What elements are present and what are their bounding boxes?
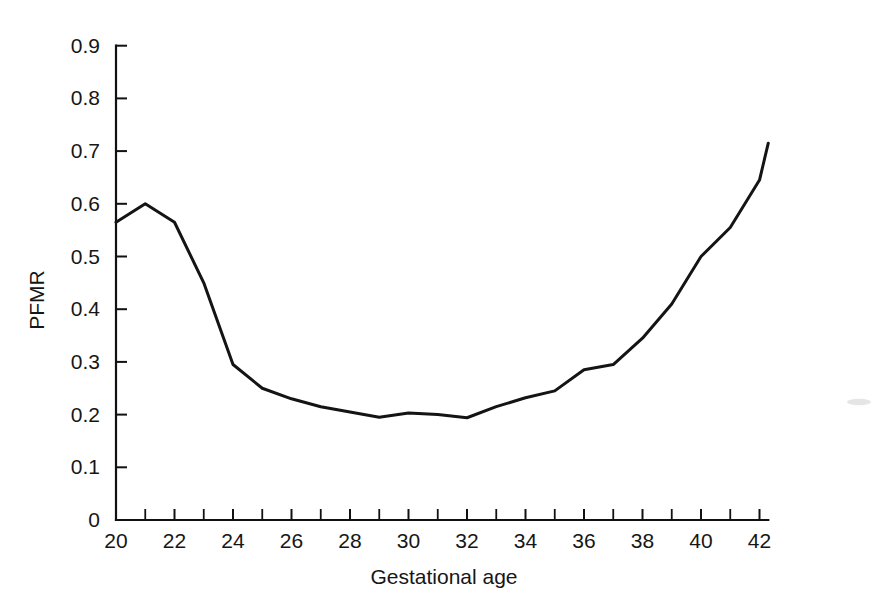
line-chart-canvas: 00.10.20.30.40.50.60.70.80.9 20222426283…	[0, 0, 882, 606]
y-tick-label: 0.4	[71, 297, 101, 320]
x-tick-label: 20	[104, 529, 127, 552]
x-tick-label: 38	[631, 529, 654, 552]
x-tick-label: 36	[572, 529, 595, 552]
y-tick-label: 0.8	[71, 86, 100, 109]
x-axis-ticks	[116, 509, 760, 520]
y-tick-label: 0.6	[71, 192, 100, 215]
y-axis-ticks	[116, 46, 127, 520]
chart-figure: 00.10.20.30.40.50.60.70.80.9 20222426283…	[0, 0, 882, 606]
y-tick-label: 0.9	[71, 34, 100, 57]
x-tick-label: 28	[338, 529, 361, 552]
scan-artifact-smudge	[847, 399, 871, 405]
x-axis-tick-labels: 202224262830323436384042	[104, 529, 771, 552]
x-tick-label: 24	[221, 529, 245, 552]
x-tick-label: 30	[397, 529, 420, 552]
y-tick-label: 0.5	[71, 245, 100, 268]
x-tick-label: 40	[689, 529, 712, 552]
x-tick-label: 22	[163, 529, 186, 552]
y-axis-tick-labels: 00.10.20.30.40.50.60.70.80.9	[71, 34, 101, 531]
x-tick-label: 32	[455, 529, 478, 552]
x-axis-title: Gestational age	[370, 565, 517, 588]
axes	[116, 46, 768, 520]
y-tick-label: 0.1	[71, 455, 100, 478]
pfmr-data-line	[116, 143, 768, 418]
y-axis-title: PFMR	[25, 270, 48, 330]
y-tick-label: 0.3	[71, 350, 100, 373]
y-tick-label: 0	[88, 508, 100, 531]
x-tick-label: 34	[514, 529, 538, 552]
y-tick-label: 0.2	[71, 403, 100, 426]
x-tick-label: 26	[280, 529, 303, 552]
x-tick-label: 42	[748, 529, 771, 552]
data-series-group	[116, 143, 768, 418]
y-tick-label: 0.7	[71, 139, 100, 162]
